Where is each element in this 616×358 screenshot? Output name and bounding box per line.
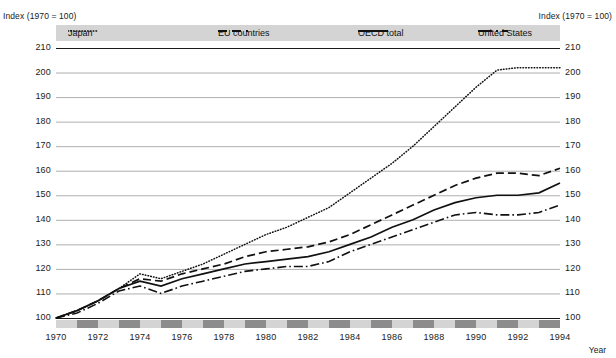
gridlines [56, 49, 560, 319]
x-band-segment [497, 320, 518, 328]
x-band-segment [287, 320, 308, 328]
x-band-segment [350, 320, 371, 328]
x-band-segment [455, 320, 476, 328]
x-band-segment [98, 320, 119, 328]
x-band-segment [203, 320, 224, 328]
x-band-segment [392, 320, 413, 328]
x-band-segment [119, 320, 140, 328]
x-axis-band [56, 320, 560, 328]
chart-container: Index (1970 = 100) Index (1970 = 100) Ja… [0, 0, 616, 358]
series-line-japan [56, 68, 560, 318]
x-band-segment [224, 320, 245, 328]
x-band-segment [371, 320, 392, 328]
plot-area [0, 0, 616, 358]
x-band-segment [56, 320, 77, 328]
series-lines [56, 68, 560, 318]
series-line-eu-countries [56, 168, 560, 318]
series-line-united-states [56, 205, 560, 318]
x-band-segment [77, 320, 98, 328]
x-band-segment [476, 320, 497, 328]
x-band-segment [140, 320, 161, 328]
x-band-segment [161, 320, 182, 328]
x-band-segment [308, 320, 329, 328]
x-band-segment [266, 320, 287, 328]
x-band-segment [182, 320, 203, 328]
x-band-segment [434, 320, 455, 328]
x-band-segment [413, 320, 434, 328]
x-band-segment [245, 320, 266, 328]
series-line-oecd-total [56, 183, 560, 318]
x-band-segment [518, 320, 539, 328]
x-band-segment [329, 320, 350, 328]
x-band-segment [539, 320, 560, 328]
